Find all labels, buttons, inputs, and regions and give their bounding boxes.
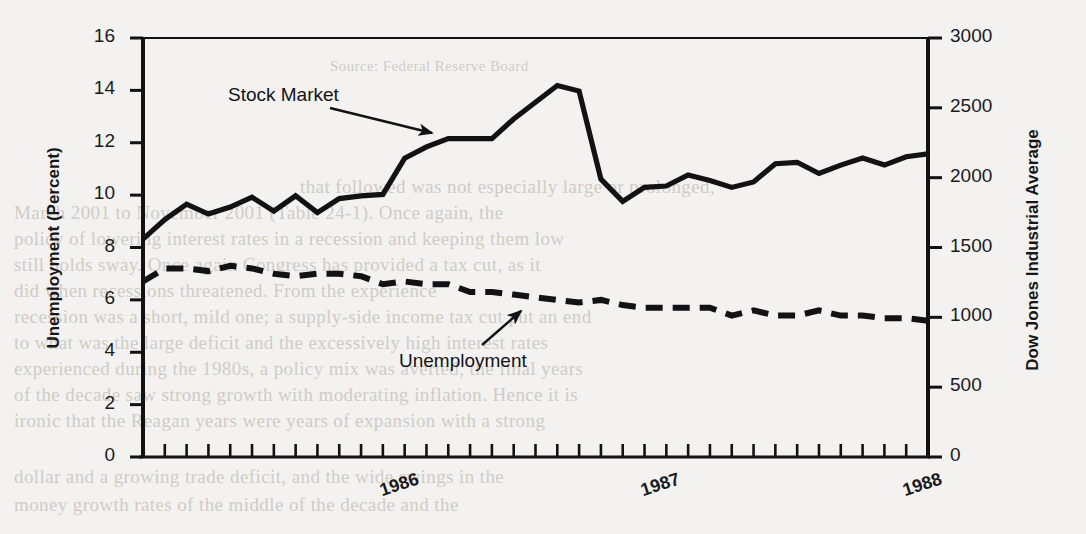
y-axis-left-title: Unemployment (Percent) (44, 128, 64, 368)
y-axis-left-tick-label: 6 (71, 287, 115, 309)
y-axis-right-title: Dow Jones Industrial Average (1023, 120, 1043, 380)
y-axis-right-tick-label: 0 (950, 444, 1004, 466)
stock-market-label: Stock Market (228, 84, 339, 106)
y-axis-left-tick-label: 8 (71, 235, 115, 257)
y-axis-left-tick-label: 2 (71, 392, 115, 414)
chart-canvas (0, 0, 1086, 534)
y-axis-left-tick-label: 12 (71, 130, 115, 152)
unemployment-label: Unemployment (399, 350, 527, 372)
y-axis-right-tick-label: 2000 (950, 165, 1004, 187)
y-axis-left-tick-label: 14 (71, 77, 115, 99)
y-axis-left-tick-label: 4 (71, 339, 115, 361)
stock-market-line (143, 86, 928, 240)
unemployment-line (143, 266, 928, 321)
y-axis-right-tick-label: 2500 (950, 95, 1004, 117)
annotation-arrow-unemployment (482, 311, 521, 345)
y-axis-right-tick-label: 3000 (950, 25, 1004, 47)
figure-page: Source: Federal Reserve Boardthat follow… (0, 0, 1086, 534)
y-axis-left-tick-label: 10 (71, 182, 115, 204)
y-axis-right-tick-label: 1500 (950, 235, 1004, 257)
y-axis-right-tick-label: 1000 (950, 304, 1004, 326)
y-axis-left-tick-label: 0 (71, 444, 115, 466)
plot-svg (0, 0, 1086, 534)
y-axis-left-tick-label: 16 (71, 25, 115, 47)
y-axis-right-tick-label: 500 (950, 374, 1004, 396)
annotation-arrow-stock-market (330, 108, 432, 133)
